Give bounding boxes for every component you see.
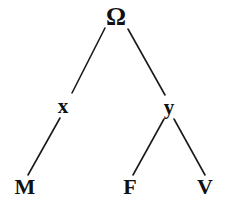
- tree-node-omega: Ω: [106, 4, 126, 29]
- tree-node-y: y: [164, 97, 175, 118]
- tree-node-f: F: [123, 176, 136, 198]
- tree-node-m: M: [15, 176, 36, 198]
- tree-diagram-canvas: Ω x y M F V: [0, 0, 234, 205]
- tree-node-x: x: [58, 96, 69, 117]
- edge-root-x: [72, 28, 105, 93]
- edge-root-y: [128, 29, 165, 95]
- edge-x-m: [28, 118, 60, 175]
- edge-y-f: [133, 119, 164, 175]
- edge-y-v: [174, 119, 205, 175]
- tree-node-v: V: [197, 176, 213, 198]
